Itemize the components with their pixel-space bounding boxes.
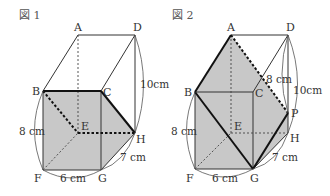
dim-height: 10cm bbox=[293, 84, 322, 96]
vertex-c: C bbox=[103, 86, 111, 99]
dim-side: 8 cm bbox=[19, 125, 45, 137]
vertex-c: C bbox=[255, 87, 263, 100]
vertex-a: A bbox=[73, 21, 83, 34]
dim-dp: 8 cm bbox=[266, 73, 292, 85]
edge-ab bbox=[43, 35, 78, 91]
figure-1-title: 図 1 bbox=[19, 9, 41, 22]
vertex-a: A bbox=[226, 21, 236, 34]
dim-width: 6 cm bbox=[60, 172, 86, 184]
vertex-f: F bbox=[34, 172, 42, 185]
edge-dc bbox=[101, 35, 135, 91]
shaded-region bbox=[195, 35, 288, 169]
dim-width: 6 cm bbox=[212, 172, 238, 184]
vertex-h: H bbox=[136, 133, 146, 146]
figure-1: 図 1 bbox=[19, 9, 169, 185]
dim-height: 10cm bbox=[140, 78, 169, 90]
figure-2: 図 2 bbox=[171, 9, 322, 185]
vertex-d: D bbox=[286, 21, 295, 34]
vertex-e: E bbox=[234, 120, 242, 133]
vertex-p: P bbox=[291, 107, 299, 120]
vertex-g: G bbox=[98, 172, 107, 185]
dim-side: 8 cm bbox=[171, 125, 197, 137]
dim-depth: 7 cm bbox=[120, 151, 146, 163]
prism-diagrams: 図 1 bbox=[0, 0, 330, 196]
vertex-d: D bbox=[133, 21, 142, 34]
dim-depth: 7 cm bbox=[272, 151, 298, 163]
vertex-b: B bbox=[184, 86, 192, 99]
vertex-g: G bbox=[250, 172, 259, 185]
vertex-b: B bbox=[32, 85, 40, 98]
vertex-f: F bbox=[186, 172, 194, 185]
figure-2-title: 図 2 bbox=[172, 9, 194, 22]
vertex-e: E bbox=[81, 120, 89, 133]
vertex-h: H bbox=[290, 132, 300, 145]
